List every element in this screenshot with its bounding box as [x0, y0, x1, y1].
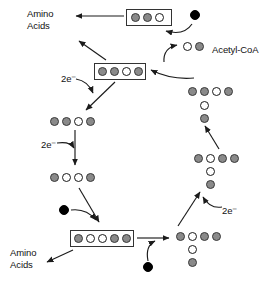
- molecule-bottom-right-branched-circle-3-gray: [212, 232, 221, 241]
- molecule-right-branched-mid-circle-3-gray: [230, 154, 239, 163]
- molecule-right-branched-upper-circle-5-gray: [200, 114, 209, 123]
- molecule-right-branched-upper-circle-4-white: [200, 101, 209, 110]
- molecule-top-boxed-circle-2-white: [155, 13, 164, 22]
- arrow-2e-upper: [76, 79, 93, 93]
- label-amino-acids-top: Amino Acids: [27, 8, 53, 31]
- label-two-electrons-upper: 2e⁻: [61, 73, 76, 85]
- arrow-acetyl-to-cycle: [164, 45, 177, 62]
- molecule-bottom-right-branched-circle-2-gray: [200, 232, 209, 241]
- molecule-input-bottom-black-circle-0-black: [143, 262, 153, 272]
- molecule-left-four-open-circle-2-white: [74, 117, 83, 126]
- arrow-mid-right-up: [205, 126, 219, 149]
- molecule-bottom-boxed-five-circle-0-gray: [74, 234, 83, 243]
- label-amino-acids-bottom: Amino Acids: [10, 247, 36, 270]
- molecule-left-four-two-white-circle-1-white: [62, 173, 71, 182]
- molecule-left-four-open-circle-1-gray: [62, 117, 71, 126]
- molecule-right-branched-mid-circle-1-white: [206, 154, 215, 163]
- molecule-left-boxed-four-circle-1-gray: [110, 67, 119, 76]
- molecule-acetyl-coa-circle-1-gray: [195, 42, 204, 51]
- molecule-right-branched-upper-circle-0-gray: [188, 87, 197, 96]
- molecule-right-branched-mid-circle-4-white: [206, 167, 215, 176]
- arrow-leftbox-down: [86, 82, 115, 110]
- arrow-bottombox-to-amino: [47, 250, 73, 262]
- arrow-right-to-left-box: [151, 70, 194, 78]
- label-acetyl-coa: Acetyl-CoA: [212, 44, 259, 56]
- arrow-2e-mid: [57, 143, 74, 148]
- molecule-bottom-boxed-five-circle-4-gray: [122, 234, 131, 243]
- molecule-top-boxed-circle-0-gray: [131, 13, 140, 22]
- molecule-bottom-right-branched-circle-5-gray: [188, 258, 197, 267]
- molecule-left-boxed-four-circle-0-gray: [98, 67, 107, 76]
- molecule-left-boxed-four-circle-3-gray: [134, 67, 143, 76]
- molecule-bottom-boxed-five-circle-2-white: [98, 234, 107, 243]
- arrow-2e-lower: [203, 197, 222, 207]
- molecule-left-four-two-white-circle-0-gray: [50, 173, 59, 182]
- arrow-black-to-bottom-right: [147, 241, 155, 261]
- molecule-input-top-black-circle-0-black: [190, 10, 200, 20]
- molecule-bottom-boxed-five-circle-1-white: [86, 234, 95, 243]
- molecule-right-branched-mid-circle-2-gray: [218, 154, 227, 163]
- molecule-input-lower-left-black-circle-0-black: [59, 205, 69, 215]
- molecule-bottom-right-branched-circle-4-white: [188, 245, 197, 254]
- molecule-left-four-two-white-circle-3-gray: [86, 173, 95, 182]
- molecule-bottom-right-branched-circle-0-gray: [176, 232, 185, 241]
- molecule-left-boxed-four-circle-2-white: [122, 67, 131, 76]
- label-two-electrons-mid: 2e⁻: [41, 139, 56, 151]
- arrow-leftbox-to-amino: [79, 41, 106, 60]
- molecule-bottom-right-branched-circle-1-white: [188, 232, 197, 241]
- molecule-top-boxed-circle-1-gray: [143, 13, 152, 22]
- diagram-canvas: Amino AcidsAcetyl-CoA2e⁻2e⁻2e⁻Amino Acid…: [0, 0, 274, 282]
- molecule-right-branched-upper-circle-2-white: [212, 87, 221, 96]
- molecule-right-branched-mid-circle-5-gray: [206, 180, 215, 189]
- molecule-left-four-open-circle-3-gray: [86, 117, 95, 126]
- molecule-bottom-boxed-five-circle-3-gray: [110, 234, 119, 243]
- label-two-electrons-lower: 2e⁻: [222, 205, 237, 217]
- molecule-right-branched-upper-circle-3-gray: [224, 87, 233, 96]
- molecule-acetyl-coa-circle-0-white: [183, 42, 192, 51]
- molecule-right-branched-mid-circle-0-gray: [194, 154, 203, 163]
- arrow-left-to-bottom-box: [79, 188, 99, 222]
- molecule-left-four-two-white-circle-2-white: [74, 173, 83, 182]
- molecule-right-branched-upper-circle-1-gray: [200, 87, 209, 96]
- molecule-left-four-open-circle-0-gray: [50, 117, 59, 126]
- arrow-bottom-right-up: [178, 192, 200, 226]
